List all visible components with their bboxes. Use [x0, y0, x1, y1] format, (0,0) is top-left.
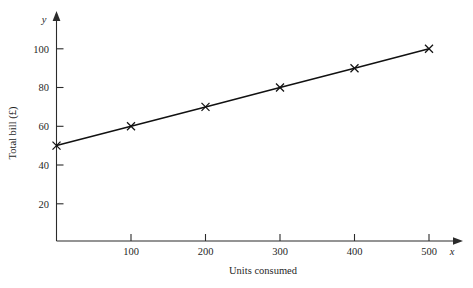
y-axis-arrow-icon	[53, 11, 61, 21]
y-tick-label-40: 40	[39, 160, 50, 171]
x-tick-label-400: 400	[347, 246, 363, 257]
x-tick-label-100: 100	[123, 246, 139, 257]
x-tick-label-300: 300	[272, 246, 288, 257]
x-tick-label-500: 500	[421, 246, 437, 257]
line-chart: 100 80 60 40 20 100 200 300 400 500 y x …	[0, 0, 473, 288]
y-axis-symbol: y	[41, 14, 47, 25]
y-tick-label-20: 20	[39, 199, 50, 210]
y-tick-label-60: 60	[39, 121, 50, 132]
x-tick-label-200: 200	[198, 246, 214, 257]
chart-canvas: 100 80 60 40 20 100 200 300 400 500 y x …	[0, 0, 473, 288]
series-total-bill-line	[57, 49, 430, 146]
y-tick-label-80: 80	[39, 82, 50, 93]
x-axis-symbol: x	[449, 246, 455, 257]
x-axis-title: Units consumed	[229, 265, 298, 276]
y-axis-title: Total bill (£)	[7, 106, 19, 159]
y-tick-label-100: 100	[33, 44, 49, 55]
x-axis-arrow-icon	[453, 237, 463, 245]
